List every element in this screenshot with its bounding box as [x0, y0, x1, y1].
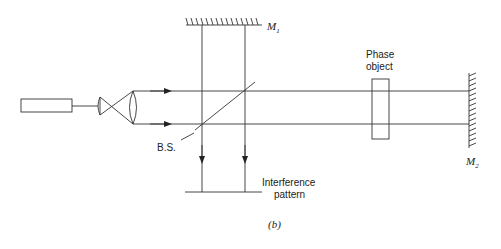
phase-object: Phase object [366, 49, 395, 139]
phase-object-label-line2: object [366, 61, 393, 72]
collimating-lens [130, 91, 137, 124]
interferometer-diagram: B.S. M1 Phase object [0, 0, 501, 249]
mirror-m2: M2 [465, 73, 479, 170]
phase-object-label-line1: Phase [366, 49, 395, 60]
m2-label: M2 [465, 155, 479, 170]
figure-caption: (b) [268, 218, 281, 231]
horizontal-beams [133, 91, 469, 124]
m1-label: M1 [266, 20, 280, 35]
beam-splitter: B.S. [157, 82, 255, 153]
vertical-beams [202, 25, 245, 192]
bs-leader-line [181, 133, 194, 140]
laser [21, 99, 98, 112]
screen: Interference pattern [185, 177, 316, 200]
bs-label: B.S. [157, 142, 176, 153]
interference-label-line2: pattern [274, 189, 305, 200]
interference-label-line1: Interference [262, 177, 316, 188]
beam-expander [98, 91, 137, 124]
mirror-m1: M1 [186, 18, 280, 35]
